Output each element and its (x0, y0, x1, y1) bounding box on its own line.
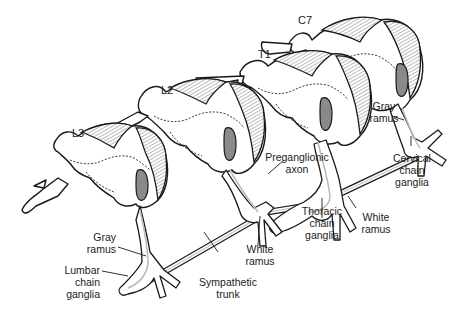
label-gray-ramus-cervical: Gray ramus (364, 100, 404, 124)
label-lumbar-chain-ganglia: Lumbar chain ganglia (56, 264, 100, 300)
label-cervical-chain-ganglia: Cervical chain ganglia (390, 152, 434, 188)
segment-l3 (22, 123, 180, 298)
label-preganglionic-axon: Preganglionic axon (261, 151, 333, 175)
segment-label-l2: L2 (161, 84, 173, 96)
label-thoracic-chain-ganglia: Thoracic chain ganglia (297, 205, 347, 241)
label-white-ramus-thoracic: White ramus (356, 211, 396, 235)
segment-label-l3: L3 (72, 127, 84, 139)
label-sympathetic-trunk: Sympathetic trunk (193, 276, 263, 300)
segment-label-c7: C7 (298, 14, 312, 26)
segment-label-t1: T1 (258, 48, 271, 60)
label-white-ramus-lumbar: White ramus (240, 243, 280, 267)
label-gray-ramus-lumbar: Gray ramus (76, 231, 116, 255)
